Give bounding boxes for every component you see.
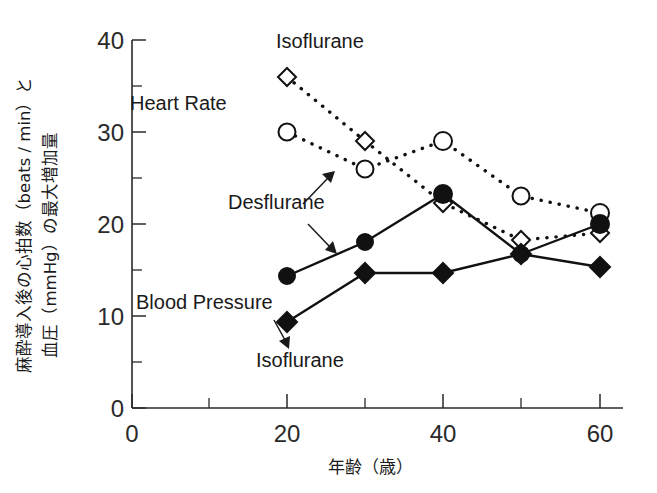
annotation-heart-rate: Heart Rate: [130, 92, 227, 114]
marker-filled-diamond: [277, 312, 297, 332]
x-tick-label-0: 0: [125, 420, 138, 447]
y-tick-labels: 40 30 20 10 0: [97, 27, 124, 422]
y-tick-label-0: 0: [111, 395, 124, 422]
x-axis-title: 年齢（歳）: [328, 457, 413, 477]
y-tick-label-20: 20: [97, 211, 124, 238]
chart-svg: 40 30 20 10 0 0 20 40 60 年齢（歳） 麻酔導入後の心拍数…: [0, 0, 657, 493]
annotation-desflurane: Desflurane: [228, 191, 325, 213]
series-heart-rate-isoflurane: [278, 68, 609, 249]
series-line-hr-isoflurane: [287, 77, 600, 240]
marker-open-circle: [513, 188, 530, 205]
annotation-blood-pressure: Blood Pressure: [136, 291, 273, 313]
marker-filled-diamond: [433, 263, 453, 283]
marker-filled-diamond: [590, 257, 610, 277]
x-ticks-minor: [209, 398, 521, 408]
marker-filled-circle: [279, 268, 295, 284]
y-tick-label-40: 40: [97, 27, 124, 54]
series-blood-pressure-isoflurane: [277, 244, 610, 332]
marker-filled-circle: [591, 215, 609, 233]
annotation-labels: Isoflurane Heart Rate Desflurane Blood P…: [130, 30, 364, 371]
marker-filled-circle: [434, 185, 452, 203]
x-tick-label-40: 40: [430, 420, 457, 447]
marker-filled-diamond: [355, 263, 375, 283]
series-markers-bp-isoflurane: [277, 244, 610, 332]
desflurane-leader-down: [308, 224, 330, 247]
marker-open-circle: [357, 161, 374, 178]
y-axis-title-line1: 麻酔導入後の心拍数（beats / min）と: [15, 77, 34, 374]
marker-filled-circle: [357, 234, 373, 250]
y-tick-label-30: 30: [97, 119, 124, 146]
y-tick-label-10: 10: [97, 303, 124, 330]
x-tick-label-20: 20: [274, 420, 301, 447]
x-tick-labels: 0 20 40 60: [125, 420, 613, 447]
marker-filled-diamond: [511, 244, 531, 264]
annotation-isoflurane-bottom: Isoflurane: [256, 349, 344, 371]
series-markers-hr-isoflurane: [278, 68, 609, 249]
chart-figure: 40 30 20 10 0 0 20 40 60 年齢（歳） 麻酔導入後の心拍数…: [0, 0, 657, 493]
annotation-isoflurane-top: Isoflurane: [276, 30, 364, 52]
x-tick-label-60: 60: [587, 420, 614, 447]
x-ticks-major: [132, 394, 600, 408]
marker-open-circle: [279, 124, 296, 141]
marker-open-circle: [434, 132, 452, 150]
y-axis-title-line2: 血圧（mmHg）の最大増加量: [41, 132, 60, 357]
